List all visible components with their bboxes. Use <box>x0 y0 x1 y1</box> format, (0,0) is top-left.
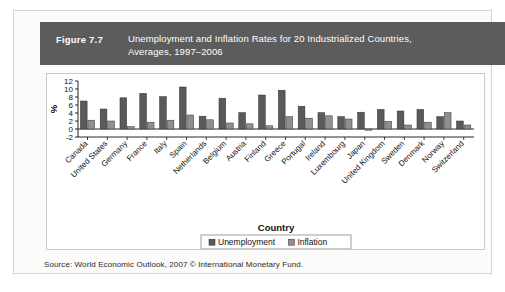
bar-unemployment-luxembourg <box>338 117 345 129</box>
bar-unemployment-finland <box>259 95 266 129</box>
chart-bars <box>80 87 470 130</box>
figure-title-line-1: Unemployment and Inflation Rates for 20 … <box>128 33 412 44</box>
bar-unemployment-italy <box>160 97 167 129</box>
chart-legend: UnemploymentInflation <box>201 235 351 249</box>
category-label: France <box>125 139 149 163</box>
figure-card: Figure 7.7 Unemployment and Inflation Ra… <box>14 11 491 273</box>
bar-unemployment-sweden <box>397 111 404 129</box>
bar-inflation-united-kingdom <box>385 121 392 129</box>
bar-inflation-united-states <box>108 121 115 129</box>
legend-label: Inflation <box>297 237 327 247</box>
bar-inflation-portugal <box>306 118 313 129</box>
bar-unemployment-denmark <box>417 109 424 129</box>
bar-unemployment-austria <box>239 113 246 129</box>
bar-unemployment-norway <box>437 117 444 129</box>
bar-inflation-sweden <box>405 125 412 129</box>
figure-title: Unemployment and Inflation Rates for 20 … <box>128 32 493 58</box>
bar-unemployment-ireland <box>318 113 325 129</box>
bar-unemployment-spain <box>179 87 186 129</box>
bar-unemployment-france <box>140 93 147 129</box>
bar-chart: -2024681012%Country CanadaUnited StatesG… <box>47 74 484 249</box>
svg-text:8: 8 <box>69 93 74 102</box>
source-note: Source: World Economic Outlook, 2007 © I… <box>44 260 303 269</box>
bar-inflation-france <box>147 122 154 129</box>
svg-text:12: 12 <box>64 77 73 86</box>
bar-inflation-denmark <box>425 122 432 129</box>
bar-inflation-ireland <box>326 116 333 129</box>
bar-unemployment-germany <box>120 98 127 129</box>
bar-inflation-canada <box>88 120 95 129</box>
legend-swatch <box>288 239 294 245</box>
svg-text:6: 6 <box>69 101 74 110</box>
category-label: Italy <box>152 139 169 156</box>
bar-inflation-greece <box>286 117 293 129</box>
svg-text:4: 4 <box>69 109 74 118</box>
x-axis-title: Country <box>258 222 295 233</box>
bar-inflation-belgium <box>227 123 234 129</box>
bar-inflation-switzerland <box>464 125 471 129</box>
bar-inflation-norway <box>444 113 451 129</box>
bar-unemployment-belgium <box>219 98 226 129</box>
bar-inflation-luxembourg <box>345 119 352 129</box>
bar-unemployment-united-kingdom <box>377 109 384 129</box>
figure-title-line-2: Averages, 1997–2006 <box>128 46 223 57</box>
svg-text:10: 10 <box>64 85 73 94</box>
bar-inflation-italy <box>167 120 174 129</box>
bar-inflation-finland <box>266 126 273 129</box>
chart-category-labels: CanadaUnited StatesGermanyFranceItalySpa… <box>63 138 465 185</box>
bar-inflation-netherlands <box>207 120 214 129</box>
figure-number-label: Figure 7.7 <box>56 34 103 45</box>
bar-unemployment-greece <box>278 90 285 129</box>
bar-unemployment-japan <box>358 112 365 129</box>
bar-unemployment-canada <box>80 101 87 129</box>
bar-inflation-spain <box>187 115 194 129</box>
bar-inflation-germany <box>128 127 135 129</box>
bar-unemployment-portugal <box>298 106 305 129</box>
bar-unemployment-netherlands <box>199 116 206 129</box>
svg-text:-2: -2 <box>66 133 74 142</box>
chart-plot-panel: -2024681012%Country CanadaUnited StatesG… <box>47 74 484 249</box>
bar-inflation-japan <box>365 129 372 130</box>
bar-inflation-austria <box>246 124 253 129</box>
svg-text:0: 0 <box>69 125 74 134</box>
svg-text:2: 2 <box>69 117 74 126</box>
bar-unemployment-united-states <box>100 109 107 129</box>
svg-text:%: % <box>48 104 59 113</box>
bar-unemployment-switzerland <box>457 121 464 129</box>
figure-caption-band: Figure 7.7 Unemployment and Inflation Ra… <box>40 22 505 65</box>
legend-swatch <box>209 239 215 245</box>
legend-label: Unemployment <box>218 237 276 247</box>
